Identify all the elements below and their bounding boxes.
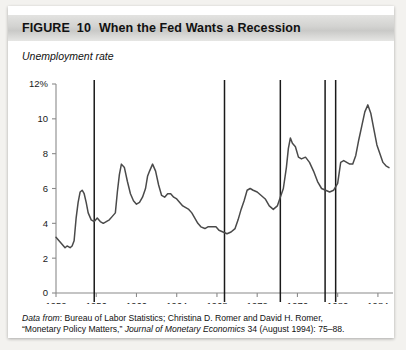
y-tick-label: 0 <box>43 287 48 298</box>
y-tick-label: 8 <box>43 148 48 159</box>
source-prefix: Data from <box>22 313 60 323</box>
y-tick-label: 12% <box>29 78 49 89</box>
y-axis-caption: Unemployment rate <box>22 50 114 62</box>
figure-number: 10 <box>77 21 91 35</box>
x-tick-label: 1976 <box>287 300 308 304</box>
x-tick-label: 1964 <box>166 300 187 304</box>
x-tick-label: 1984 <box>367 300 388 304</box>
source-part3: 34 (August 1994): 75–88. <box>245 324 344 334</box>
x-tick-label: 1952 <box>45 300 66 304</box>
figure-heading: FIGURE 10 When the Fed Wants a Recession <box>22 15 394 41</box>
y-tick-label: 4 <box>43 218 48 229</box>
figure-root: FIGURE 10 When the Fed Wants a Recession… <box>0 0 406 350</box>
figure-page: FIGURE 10 When the Fed Wants a Recession… <box>8 6 394 338</box>
figure-title: When the Fed Wants a Recession <box>99 21 301 35</box>
unemployment-line-chart: 024681012%195219561960196419681972197619… <box>8 64 394 304</box>
unemployment-series-line <box>56 105 389 248</box>
x-axis-ticks: 195219561960196419681972197619801984 <box>45 293 388 304</box>
source-part1: Bureau of Labor Statistics; Christina D.… <box>62 313 323 323</box>
source-part2: “Monetary Policy Matters,” <box>22 324 125 334</box>
x-tick-label: 1956 <box>86 300 107 304</box>
source-journal: Journal of Monetary Economics <box>125 324 245 334</box>
chart-canvas: 024681012%195219561960196419681972197619… <box>8 64 394 304</box>
y-tick-label: 2 <box>43 253 48 264</box>
x-tick-label: 1980 <box>327 300 348 304</box>
y-tick-label: 10 <box>37 113 48 124</box>
figure-label: FIGURE <box>22 21 70 35</box>
x-tick-label: 1972 <box>247 300 268 304</box>
source-note: Data from: Bureau of Labor Statistics; C… <box>22 313 386 336</box>
x-tick-label: 1960 <box>126 300 147 304</box>
y-axis-ticks: 024681012% <box>29 78 56 298</box>
y-tick-label: 6 <box>43 183 48 194</box>
